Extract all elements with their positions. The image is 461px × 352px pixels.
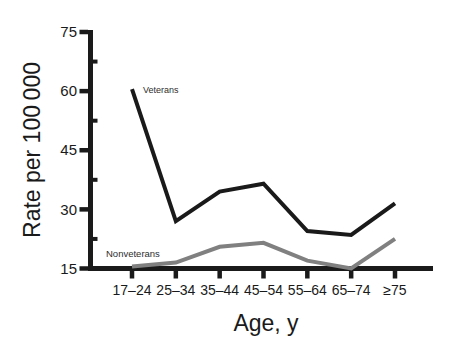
y-axis-title: Rate per 100 000 <box>19 62 45 238</box>
nonveterans-line <box>132 239 395 269</box>
x-tick-label: 17–24 <box>113 282 152 298</box>
x-tick-label: 55–64 <box>288 282 327 298</box>
y-minor-tick <box>93 178 98 182</box>
x-tick-label: 65–74 <box>332 282 371 298</box>
y-tick-label: 45 <box>60 141 77 158</box>
x-tick <box>349 271 354 279</box>
x-tick <box>130 271 135 279</box>
y-minor-tick <box>93 119 98 123</box>
line-chart-svg: 153045607517–2425–3435–4445–5455–6465–74… <box>0 0 461 352</box>
x-tick-label: 45–54 <box>244 282 283 298</box>
veterans-line <box>132 89 395 235</box>
y-tick-label: 15 <box>60 260 77 277</box>
y-tick-label: 60 <box>60 82 77 99</box>
chart: 153045607517–2425–3435–4445–5455–6465–74… <box>0 0 461 352</box>
x-tick <box>217 271 222 279</box>
x-tick-label: ≥75 <box>383 282 406 298</box>
y-major-tick <box>80 30 89 35</box>
x-tick <box>174 271 179 279</box>
y-tick-label: 75 <box>60 23 77 40</box>
y-minor-tick <box>93 60 98 64</box>
x-tick <box>393 271 398 279</box>
x-tick <box>261 271 266 279</box>
y-major-tick <box>80 89 89 94</box>
series-label-nonveterans: Nonveterans <box>106 248 160 259</box>
y-major-tick <box>80 266 89 271</box>
y-major-tick <box>80 148 89 153</box>
x-tick <box>305 271 310 279</box>
x-tick-label: 35–44 <box>200 282 239 298</box>
series-label-veterans: Veterans <box>143 85 179 95</box>
y-tick-label: 30 <box>60 201 77 218</box>
x-axis-title: Age, y <box>233 310 299 336</box>
y-minor-tick <box>93 237 98 241</box>
y-axis-line <box>88 30 93 271</box>
x-tick-label: 25–34 <box>156 282 195 298</box>
y-major-tick <box>80 207 89 212</box>
